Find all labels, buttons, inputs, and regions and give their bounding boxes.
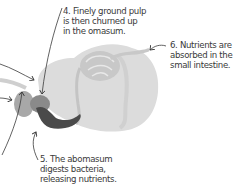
label-step-6-line-2: absorbed in the xyxy=(170,50,232,60)
arrow-to-rumen xyxy=(0,64,34,80)
esophagus-shape xyxy=(0,80,26,88)
label-step-4-line-2: is then churned up xyxy=(63,16,146,26)
label-step-6-line-3: small intestine. xyxy=(170,60,232,70)
arrow-label-6-to-intestine xyxy=(150,45,166,50)
label-step-6: 6. Nutrients are absorbed in the small i… xyxy=(170,40,232,70)
label-step-6-line-1: 6. Nutrients are xyxy=(170,40,232,50)
label-step-5-line-3: releasing nutrients. xyxy=(40,174,117,184)
label-step-5-line-2: digests bacteria, xyxy=(40,164,117,174)
arrow-to-reticulum xyxy=(0,98,12,100)
label-step-5: 5. The abomasum digests bacteria, releas… xyxy=(40,154,117,184)
label-step-4: 4. Finely ground pulp is then churned up… xyxy=(63,6,146,36)
label-step-4-line-1: 4. Finely ground pulp xyxy=(63,6,146,16)
arrow-label-5-to-abomasum xyxy=(33,132,38,160)
label-step-5-line-1: 5. The abomasum xyxy=(40,154,117,164)
label-step-4-line-3: in the omasum. xyxy=(63,26,146,36)
